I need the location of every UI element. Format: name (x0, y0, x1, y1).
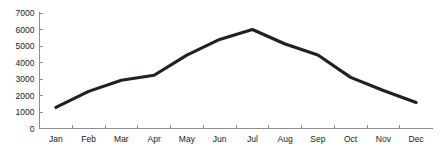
x-tick-label: Jan (49, 134, 63, 144)
y-tick-label: 3000 (16, 74, 35, 84)
x-tick-label: Oct (344, 134, 358, 144)
plot-background (0, 0, 440, 154)
x-tick-label: Jul (247, 134, 258, 144)
y-tick-label: 1000 (16, 107, 35, 117)
x-tick-label: Apr (148, 134, 161, 144)
x-tick-label: Mar (114, 134, 129, 144)
line-chart: 01000200030004000500060007000 JanFebMarA… (0, 0, 440, 154)
x-tick-label: Dec (409, 134, 425, 144)
x-tick-label: Aug (278, 134, 293, 144)
x-tick-label: Sep (310, 134, 325, 144)
y-tick-label: 5000 (16, 41, 35, 51)
x-tick-label: May (179, 134, 196, 144)
y-tick-label: 4000 (16, 58, 35, 68)
chart-canvas: 01000200030004000500060007000 JanFebMarA… (0, 0, 440, 154)
y-tick-label: 0 (30, 124, 35, 134)
x-tick-label: Feb (81, 134, 96, 144)
x-tick-label: Nov (376, 134, 392, 144)
x-tick-label: Jun (213, 134, 227, 144)
y-tick-label: 2000 (16, 91, 35, 101)
y-tick-label: 6000 (16, 25, 35, 35)
y-tick-label: 7000 (16, 8, 35, 18)
